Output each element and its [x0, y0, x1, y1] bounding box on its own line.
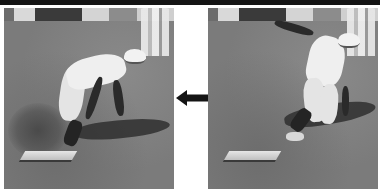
arrow-left-icon: [176, 90, 208, 106]
base-bag: [223, 151, 281, 162]
photo-right-player-sliding: [208, 8, 378, 189]
base-bag: [19, 151, 77, 162]
photo-left-player-reaching: [4, 8, 174, 189]
top-border-bar: [0, 0, 380, 5]
